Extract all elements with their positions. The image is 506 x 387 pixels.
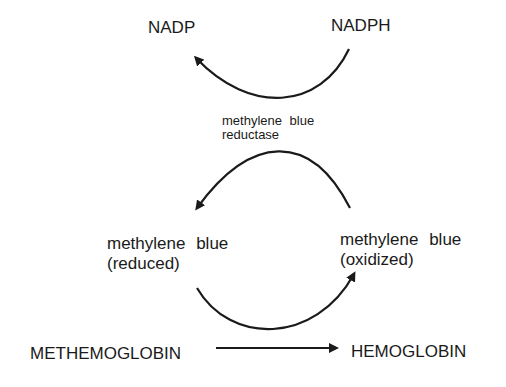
label-hemoglobin: HEMOGLOBIN — [351, 343, 466, 362]
label-methylene-blue-reduced: methylene blue (reduced) — [107, 234, 228, 274]
label-enzyme: methylene blue reductase — [222, 114, 314, 142]
arrow-reduced-to-oxidized — [197, 274, 354, 329]
arrows-layer — [0, 0, 506, 387]
mb-reduced-line1: methylene blue — [107, 234, 228, 254]
arrow-oxidized-to-reduced — [197, 151, 350, 208]
label-nadph: NADPH — [331, 17, 391, 36]
enzyme-line2: reductase — [222, 128, 314, 142]
mb-reduced-line2: (reduced) — [107, 254, 228, 274]
label-methemoglobin: METHEMOGLOBIN — [30, 345, 181, 364]
label-nadp: NADP — [148, 19, 195, 38]
mb-oxidized-line2: (oxidized) — [340, 250, 461, 270]
arrow-nadph-to-nadp — [196, 49, 349, 98]
label-methylene-blue-oxidized: methylene blue (oxidized) — [340, 230, 461, 270]
mb-oxidized-line1: methylene blue — [340, 230, 461, 250]
enzyme-line1: methylene blue — [222, 114, 314, 128]
